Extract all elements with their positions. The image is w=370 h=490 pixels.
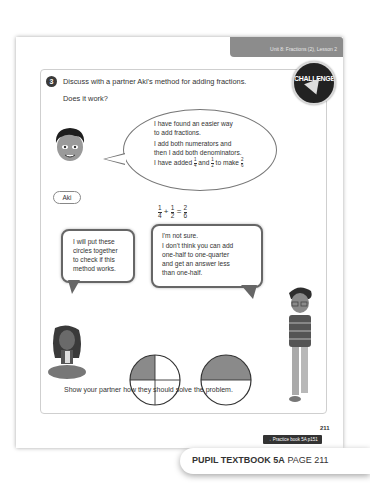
question-text: Discuss with a partner Aki's method for …	[63, 77, 246, 86]
lesson-header-text: Unit 8: Fractions (2), Lesson 2	[270, 46, 337, 52]
instruction-text: Show your partner how they should solve …	[64, 386, 233, 393]
fraction: 26	[184, 205, 188, 219]
fraction: 14	[194, 158, 197, 168]
challenge-badge-icon: CHALLENGE	[292, 61, 336, 105]
practice-book-link[interactable]: → Practice book 5A p151	[263, 435, 322, 444]
half-shaded-circle	[199, 353, 253, 407]
footer-page-label: PUPIL TEXTBOOK 5A PAGE 211	[180, 448, 370, 474]
aki-bubble-line: to add fractions.	[154, 129, 201, 137]
boy-character-illustration	[283, 283, 317, 409]
aki-name-label: Aki	[53, 191, 81, 204]
lesson-header-bar: Unit 8: Fractions (2), Lesson 2	[230, 37, 343, 57]
girl-character-illustration	[47, 324, 87, 380]
aki-bubble-line: I have found an easier way	[154, 120, 233, 128]
boy-speech-bubble: I'm not sure. I don't think you can add …	[151, 224, 263, 288]
aki-bubble-line: I add both numerators and	[154, 140, 231, 148]
girl-speech-bubble: I will put these circles together to che…	[61, 229, 135, 283]
aki-bubble-line-fractions: I have added 14 and 12 to make 26	[154, 158, 243, 168]
quarter-shaded-circle	[128, 353, 182, 407]
fraction: 12	[211, 158, 214, 168]
question-subtext: Does it work?	[63, 94, 108, 103]
aki-avatar	[53, 125, 87, 163]
question-number: 3	[46, 76, 57, 87]
footer-book-title: PUPIL TEXTBOOK 5A	[192, 455, 285, 465]
fraction: 26	[241, 158, 244, 168]
aki-bubble-line: then I add both denominators.	[154, 149, 242, 157]
fraction: 12	[171, 205, 175, 219]
question-box: 3 Discuss with a partner Aki's method fo…	[40, 69, 327, 414]
page-number: 211	[320, 425, 330, 431]
girl-bubble-tail	[68, 280, 80, 294]
fraction: 14	[158, 205, 162, 219]
aki-equation: 14 + 12 = 26	[158, 205, 187, 219]
textbook-page: Unit 8: Fractions (2), Lesson 2 3 Discus…	[16, 37, 343, 448]
footer-page: PAGE 211	[287, 455, 328, 465]
aki-speech-bubble: I have found an easier way to add fracti…	[123, 109, 277, 191]
boy-bubble-tail	[241, 285, 257, 299]
